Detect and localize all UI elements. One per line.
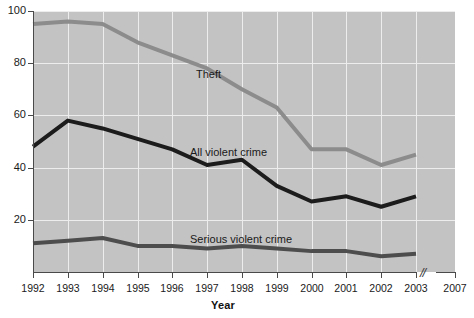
y-tick-60: [28, 115, 34, 116]
bottom-edge-artifact: [55, 301, 165, 315]
y-tick-80: [28, 63, 34, 64]
axis-break-icon: //: [420, 266, 438, 280]
series-label-theft: Theft: [196, 68, 221, 80]
y-tick-label-100: 100: [0, 5, 26, 16]
y-tick-label-60: 60: [0, 109, 26, 120]
y-axis-line: [33, 11, 34, 272]
series-label-all-violent-crime: All violent crime: [190, 146, 267, 158]
y-tick-20: [28, 220, 34, 221]
y-tick-label-80: 80: [0, 57, 26, 68]
x-tick-1992: [33, 272, 34, 278]
x-tick-label-2007: 2007: [433, 283, 474, 294]
x-axis-line-after-break: [436, 272, 455, 273]
y-tick-40: [28, 168, 34, 169]
x-tick-2003: [416, 272, 417, 278]
line-chart: 100 80 60 40 20 1992 1993 1994 1995 1996…: [0, 0, 474, 318]
x-tick-1999: [277, 272, 278, 278]
y-tick-label-40: 40: [0, 162, 26, 173]
x-tick-1994: [103, 272, 104, 278]
series-lines-layer: [0, 0, 474, 318]
x-tick-1997: [207, 272, 208, 278]
x-tick-1993: [68, 272, 69, 278]
x-axis-title-text: Year: [211, 299, 235, 311]
x-tick-2001: [346, 272, 347, 278]
series-line-theft: [33, 21, 416, 165]
x-tick-1996: [172, 272, 173, 278]
y-tick-label-20: 20: [0, 214, 26, 225]
x-tick-1998: [242, 272, 243, 278]
x-tick-2002: [381, 272, 382, 278]
x-tick-2000: [312, 272, 313, 278]
x-tick-1995: [138, 272, 139, 278]
x-tick-2007: [455, 272, 456, 278]
series-line-all-violent-crime: [33, 121, 416, 207]
y-tick-100: [28, 11, 34, 12]
x-axis-line: [33, 272, 416, 273]
x-tick-label-2003: 2003: [394, 283, 438, 294]
series-label-serious-violent-crime: Serious violent crime: [190, 233, 292, 245]
